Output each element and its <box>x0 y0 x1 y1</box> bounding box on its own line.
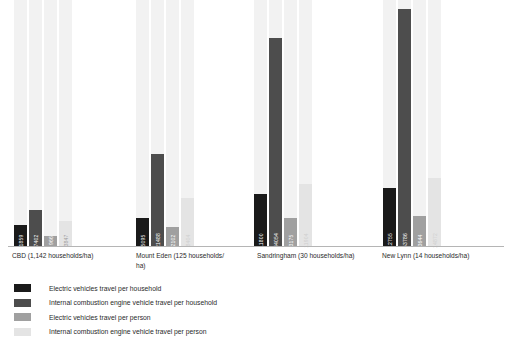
bar-track <box>284 0 297 246</box>
bar-slot: 53786 <box>398 0 411 246</box>
bar[interactable]: 1859 <box>14 225 27 246</box>
bar-value-label: 1859 <box>18 235 23 247</box>
bar-slot: 14872 <box>428 0 441 246</box>
legend-swatch <box>14 313 31 321</box>
plot-area: 1859740296638475095214882102840411800440… <box>0 0 516 246</box>
bar-value-label: 3175 <box>288 235 293 247</box>
bar-slot: 3644 <box>413 0 426 246</box>
bar[interactable]: 2102 <box>166 227 179 246</box>
bar-track <box>59 0 72 246</box>
legend-swatch <box>14 284 31 292</box>
bar[interactable]: 966 <box>44 236 57 246</box>
bar-slot: 2102 <box>166 0 179 246</box>
bar-slot: 3175 <box>284 0 297 246</box>
category-label-line: Sandringham (30 households/ha) <box>257 251 379 261</box>
bar-track <box>166 0 179 246</box>
bar-slot: 5095 <box>136 0 149 246</box>
bar-slot: 11800 <box>254 0 267 246</box>
bar-slot: 11904 <box>299 0 312 246</box>
bar-chart: 1859740296638475095214882102840411800440… <box>0 0 516 354</box>
legend-swatch <box>14 299 31 307</box>
bar[interactable]: 53786 <box>398 9 411 246</box>
category-label: CBD (1,142 households/ha) <box>12 251 132 261</box>
bar-track <box>136 0 149 246</box>
category-label: Sandringham (30 households/ha) <box>257 251 379 261</box>
bar[interactable]: 7402 <box>29 210 42 246</box>
chart-legend: Electric vehicles travel per householdIn… <box>14 281 314 339</box>
bar[interactable]: 11904 <box>299 184 312 246</box>
category-label: Mount Eden (125 households/ha) <box>136 251 236 270</box>
legend-item[interactable]: Electric vehicles travel per household <box>14 281 314 296</box>
bar-slot: 21488 <box>151 0 164 246</box>
legend-label: Internal combustion engine vehicle trave… <box>49 299 217 306</box>
x-axis-baseline <box>8 246 504 247</box>
bar[interactable]: 8404 <box>181 198 194 246</box>
category-axis-labels: CBD (1,142 households/ha)Mount Eden (125… <box>0 251 516 277</box>
bar-slot: 44054 <box>269 0 282 246</box>
bar-slot: 966 <box>44 0 57 246</box>
bar-track <box>413 0 426 246</box>
bar-track <box>14 0 27 246</box>
legend-label: Internal combustion engine vehicle trave… <box>49 328 207 335</box>
bar-slot: 7402 <box>29 0 42 246</box>
bar[interactable]: 3847 <box>59 221 72 246</box>
bar[interactable]: 14872 <box>428 178 441 246</box>
bar[interactable]: 3644 <box>413 216 426 246</box>
bar-value-label: 966 <box>48 236 53 245</box>
bar-value-label: 7402 <box>33 235 38 247</box>
bar-group-bars: 50952148821028404 <box>136 0 194 246</box>
category-label: New Lynn (14 households/ha) <box>382 251 502 261</box>
bar[interactable]: 44054 <box>269 38 282 246</box>
bar-value-label: 3644 <box>417 235 422 247</box>
bar-track <box>44 0 57 246</box>
bar-slot: 12755 <box>383 0 396 246</box>
bar-group-bars: 1275553786364414872 <box>383 0 441 246</box>
bar-value-label: 8404 <box>185 235 190 247</box>
bar-slot: 8404 <box>181 0 194 246</box>
bar-value-label: 3847 <box>63 235 68 247</box>
category-label-line: CBD (1,142 households/ha) <box>12 251 132 261</box>
category-label-line: Mount Eden (125 households/ <box>136 251 236 261</box>
legend-label: Electric vehicles travel per household <box>49 285 161 292</box>
bar[interactable]: 5095 <box>136 218 149 246</box>
bar-group-bars: 1180044054317511904 <box>254 0 312 246</box>
category-label-line: ha) <box>136 261 236 271</box>
legend-swatch <box>14 328 31 336</box>
bar[interactable]: 3175 <box>284 218 297 246</box>
bar[interactable]: 21488 <box>151 154 164 246</box>
category-label-line: New Lynn (14 households/ha) <box>382 251 502 261</box>
legend-item[interactable]: Internal combustion engine vehicle trave… <box>14 325 314 340</box>
legend-item[interactable]: Internal combustion engine vehicle trave… <box>14 296 314 311</box>
bar[interactable]: 12755 <box>383 188 396 246</box>
bar[interactable]: 11800 <box>254 194 267 246</box>
bar-slot: 1859 <box>14 0 27 246</box>
bar-group-bars: 185974029663847 <box>14 0 72 246</box>
bar-value-label: 5095 <box>140 235 145 247</box>
bar-value-label: 2102 <box>170 235 175 247</box>
legend-label: Electric vehicles travel per person <box>49 314 151 321</box>
legend-item[interactable]: Electric vehicles travel per person <box>14 310 314 325</box>
bar-slot: 3847 <box>59 0 72 246</box>
